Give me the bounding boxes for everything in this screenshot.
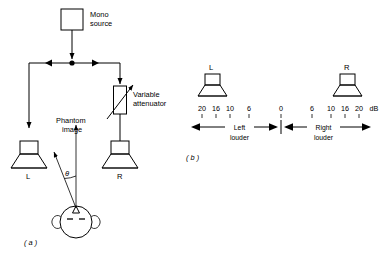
- head-outline: [60, 206, 92, 238]
- tick-label-right-10: 10: [327, 104, 335, 113]
- ear-left-icon: [52, 216, 60, 229]
- speaker-left-a-label: L: [26, 172, 30, 181]
- attenuator-label-line2: attenuator: [133, 99, 167, 108]
- speaker-right-b-label: R: [344, 63, 350, 72]
- right-louder-caption-line2: louder: [314, 134, 334, 141]
- speaker-left-b-cabinet: [205, 74, 220, 85]
- tick-label-left-20: 20: [198, 104, 206, 113]
- tick-label-left-16: 16: [212, 104, 220, 113]
- left-louder-caption-line2: louder: [230, 134, 250, 141]
- speaker-left-b-horn: [198, 85, 227, 96]
- speaker-right-b-horn: [333, 85, 362, 96]
- tick-label-left-10: 10: [226, 104, 234, 113]
- tick-label-right-6: 6: [310, 104, 314, 113]
- speaker-right-a-label: R: [117, 172, 123, 181]
- tick-label-left-6: 6: [247, 104, 251, 113]
- speaker-right-a: [102, 141, 138, 168]
- listener-head: [52, 206, 100, 238]
- speaker-left-a-horn: [11, 154, 47, 168]
- attenuator-label-line1: Variable: [133, 90, 160, 99]
- tick-label-center-0: 0: [279, 104, 283, 113]
- speaker-right-a-cabinet: [111, 141, 129, 154]
- right-louder-caption-line1: Right: [316, 124, 332, 132]
- speaker-right-b: [333, 74, 362, 96]
- speaker-right-b-cabinet: [340, 74, 355, 85]
- variable-attenuator-body: [114, 86, 127, 114]
- stereo-phantom-image-figure: Mono source Variable attenuator: [0, 0, 388, 256]
- axis-tick-marks: [202, 114, 359, 118]
- speaker-left-b-label: L: [209, 63, 213, 72]
- speaker-left-a-cabinet: [20, 141, 38, 154]
- right-louder-arrowhead: [362, 123, 371, 131]
- tick-label-right-20: 20: [355, 104, 363, 113]
- phantom-image-label-line1: Phantom: [56, 116, 86, 125]
- left-louder-caption-line1: Left: [234, 124, 245, 131]
- panel-a: Mono source Variable attenuator: [11, 9, 167, 247]
- speaker-left-a: [11, 141, 47, 168]
- right-louder-inner-arrowhead: [284, 123, 293, 131]
- axis-unit-label: dB: [370, 104, 379, 113]
- speaker-right-a-horn: [102, 154, 138, 168]
- panel-a-caption: ( a ): [24, 238, 38, 247]
- angle-label: θ: [65, 169, 70, 178]
- panel-b: L R 20 16 10 6 0 6 10 16 20 dB: [186, 63, 379, 162]
- mono-source-label-line1: Mono: [90, 10, 109, 19]
- figure-root: Mono source Variable attenuator: [0, 0, 388, 256]
- panel-b-caption: ( b ): [186, 153, 200, 162]
- tick-label-right-16: 16: [341, 104, 349, 113]
- speaker-left-b: [198, 74, 227, 96]
- sightline-to-left-speaker: [54, 152, 76, 208]
- left-louder-arrowhead: [191, 123, 200, 131]
- mono-source-label-line2: source: [90, 19, 112, 28]
- phantom-image-label-line2: image: [62, 125, 82, 134]
- mono-source-box: [61, 9, 83, 30]
- bus-arrow-left: [45, 60, 52, 67]
- bus-arrow-right: [92, 60, 99, 67]
- ear-right-icon: [92, 216, 100, 229]
- left-louder-inner-arrowhead: [269, 123, 278, 131]
